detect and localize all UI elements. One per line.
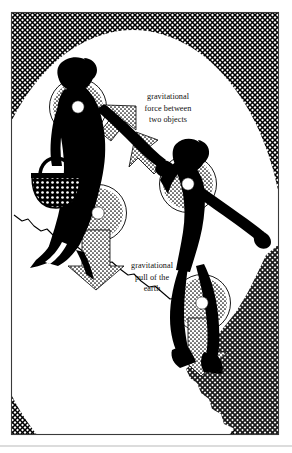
force-label-line-1: gravitational [147,92,190,101]
illustration-canvas: gravitational force between two objects … [0,0,292,453]
pull-label-line-1: gravitational [131,261,174,270]
child-chest-center-of-mass-dot [182,178,194,190]
pull-label-line-2: pull of the [135,273,170,282]
pull-label-line-3: earth [144,284,161,293]
force-label-line-3: two objects [149,115,187,124]
child-knee-center-of-mass-dot [196,297,208,309]
adult-shoulder-center-of-mass-dot [72,101,84,113]
gravity-illustration: gravitational force between two objects … [0,0,292,453]
adult-hip-center-of-mass-dot [92,207,104,219]
force-between-objects-label: gravitational force between two objects [145,92,192,124]
force-label-line-2: force between [145,104,192,113]
